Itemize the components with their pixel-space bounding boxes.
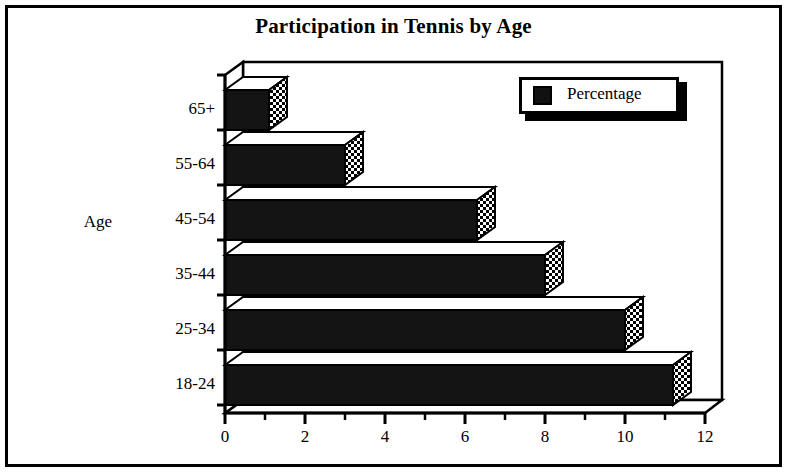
x-axis-tick-labels: 0 2 4 6 8 10 12 xyxy=(0,0,787,472)
chart-legend: Percentage xyxy=(519,77,687,121)
chart-page: Participation in Tennis by Age xyxy=(0,0,787,472)
x-tick-label-2: 2 xyxy=(283,427,327,447)
legend-swatch-percentage xyxy=(533,86,552,105)
x-tick-label-10: 10 xyxy=(603,427,647,447)
x-tick-label-8: 8 xyxy=(523,427,567,447)
x-tick-label-6: 6 xyxy=(443,427,487,447)
legend-label-percentage: Percentage xyxy=(567,84,642,104)
y-axis-title: Age xyxy=(58,212,138,232)
x-tick-label-4: 4 xyxy=(363,427,407,447)
x-tick-label-0: 0 xyxy=(203,427,247,447)
x-tick-label-12: 12 xyxy=(683,427,727,447)
